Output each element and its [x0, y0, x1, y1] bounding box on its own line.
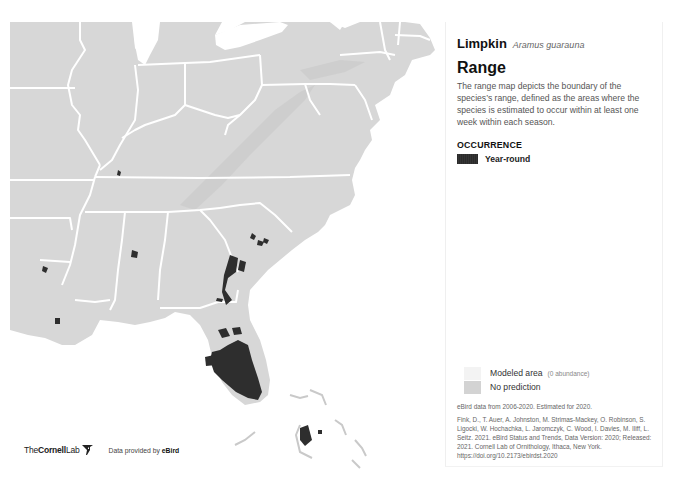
secondary-legend: Modeled area (0 abundance) No prediction [464, 366, 589, 394]
legend-item-modeled-area: Modeled area (0 abundance) [464, 366, 589, 380]
bird-logo-icon [82, 444, 93, 456]
legend-label: No prediction [490, 382, 541, 392]
legend-item-year-round: Year-round [457, 154, 652, 164]
citation: Fink, D., T. Auer, A. Johnston, M. Strim… [457, 415, 657, 460]
common-name: Limpkin [457, 36, 507, 51]
brand-bold: Cornell [38, 445, 66, 455]
data-provided-by: Data provided by eBird [109, 447, 180, 454]
land [10, 22, 435, 405]
year-round-swatch [457, 154, 478, 164]
provided-text: Data provided by [109, 447, 162, 454]
modeled-area-swatch [464, 367, 481, 380]
data-note: eBird data from 2006-2020. Estimated for… [457, 402, 657, 411]
footer: TheCornellLab Data provided by eBird [24, 444, 179, 456]
legend-item-no-prediction: No prediction [464, 380, 589, 394]
no-prediction-swatch [464, 381, 481, 394]
legend-label: Modeled area [490, 368, 543, 378]
credits: eBird data from 2006-2020. Estimated for… [457, 402, 657, 464]
legend-panel: Limpkin Aramus guarauna Range The range … [445, 22, 663, 467]
brand-prefix: The [24, 445, 38, 455]
occurrence-title: OCCURRENCE [457, 140, 652, 150]
brand-suffix: Lab [66, 445, 80, 455]
section-title: Range [457, 59, 652, 77]
legend-note: (0 abundance) [548, 370, 590, 377]
cornell-lab-logo[interactable]: TheCornellLab [24, 445, 80, 455]
ebird-brand[interactable]: eBird [162, 447, 179, 454]
scientific-name: Aramus guarauna [513, 40, 585, 50]
legend-label: Year-round [485, 154, 530, 164]
species-title: Limpkin Aramus guarauna [457, 36, 652, 51]
range-description: The range map depicts the boundary of th… [457, 80, 652, 128]
